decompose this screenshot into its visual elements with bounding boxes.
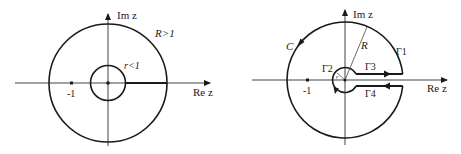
right-imag-axis-label: Im z	[353, 8, 373, 20]
right-radius-line	[345, 27, 367, 80]
left-inner-radius-label: r<1	[124, 60, 140, 71]
right-origin-dot	[344, 79, 347, 82]
left-imag-axis-label: Im z	[117, 9, 137, 21]
right-arrow-gamma3-icon	[384, 71, 391, 78]
left-outer-radius-label: R>1	[154, 27, 175, 39]
right-tick-minus-one	[306, 79, 309, 82]
left-tick-label: -1	[67, 88, 75, 99]
right-inner-radius-label: r	[336, 74, 339, 80]
right-contour-label: C	[286, 40, 294, 52]
left-tick-minus-one	[70, 82, 73, 85]
right-gamma1-label: Γ1	[396, 46, 407, 57]
right-gamma2-label: Γ2	[322, 63, 333, 74]
right-gamma4-label: Γ4	[365, 88, 376, 99]
right-real-axis-label: Re z	[427, 82, 447, 94]
right-arrow-gamma4-icon	[383, 83, 390, 90]
left-real-axis-label: Re z	[193, 86, 213, 98]
right-figure: Im z C R r Γ1 Γ2 Γ3 Γ4 Re z -1	[252, 8, 447, 145]
diagram-canvas: Im z R>1 r<1 Re z -1 Im z C R	[0, 0, 461, 154]
right-tick-label: -1	[303, 85, 311, 96]
right-radius-label: R	[360, 39, 368, 51]
left-figure: Im z R>1 r<1 Re z -1	[15, 9, 213, 146]
left-origin-dot	[106, 81, 110, 85]
right-gamma3-label: Γ3	[365, 61, 376, 72]
